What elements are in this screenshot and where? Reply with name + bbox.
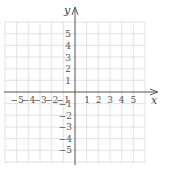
y-tick-label: −2 [59, 111, 72, 121]
y-tick-label: 2 [65, 64, 71, 74]
y-tick-label: −5 [59, 145, 73, 155]
x-axis-label: x [151, 94, 158, 107]
x-tick-label: 5 [130, 95, 136, 105]
y-tick-label: 1 [65, 76, 71, 86]
y-tick-label: −1 [59, 99, 72, 109]
x-tick-label: 3 [107, 95, 113, 105]
y-tick-label: −3 [59, 122, 73, 132]
y-tick-label: 3 [65, 53, 71, 63]
y-tick-label: −4 [59, 134, 73, 144]
y-axis [72, 7, 78, 165]
x-tick-label: 1 [84, 95, 90, 105]
x-tick-label: 4 [119, 95, 125, 105]
y-tick-label: 4 [65, 41, 71, 51]
x-tick-label: 2 [96, 95, 102, 105]
y-axis-label: y [63, 4, 71, 17]
y-tick-label: 5 [65, 29, 71, 39]
coordinate-plane: y x −5 −4 −3 −2 −1 1 2 3 4 5 5 4 3 2 1 −… [0, 0, 169, 171]
